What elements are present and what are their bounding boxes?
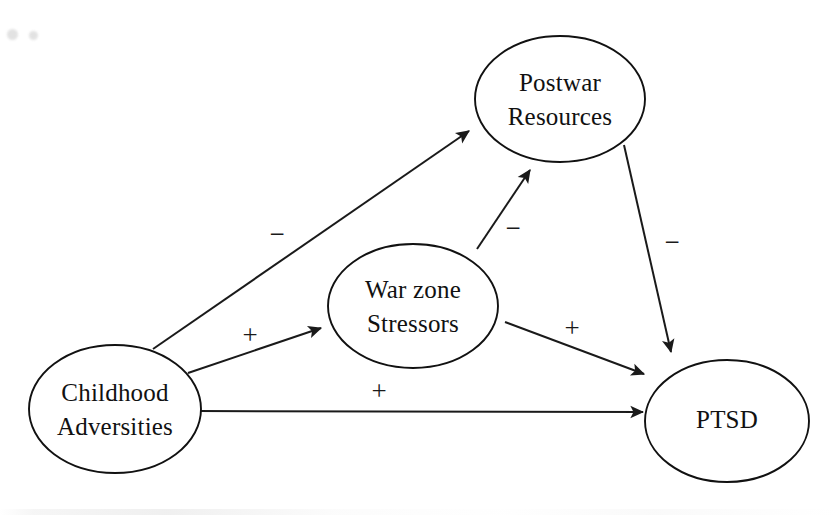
node-war-zone-stressors-ellipse [328, 244, 498, 368]
node-war-zone-stressors-label-line2: Stressors [367, 310, 459, 337]
sign-warzone-to-postwar: − [505, 213, 520, 243]
node-childhood-adversities-label-line1: Childhood [61, 379, 169, 406]
node-ptsd-label-line1: PTSD [696, 406, 758, 433]
sign-postwar-to-ptsd: − [664, 227, 679, 257]
path-diagram-figure: Postwar Resources War zone Stressors Chi… [0, 0, 837, 515]
scan-speck [29, 31, 38, 40]
edge-warzone-to-postwar [477, 170, 530, 249]
edge-childhood-to-ptsd [198, 411, 643, 412]
sign-warzone-to-ptsd: + [564, 313, 579, 343]
node-postwar-resources-label-line2: Resources [508, 103, 613, 130]
node-postwar-resources-ellipse [475, 36, 645, 162]
sign-childhood-to-warzone: + [242, 320, 257, 350]
nodes-group: Postwar Resources War zone Stressors Chi… [29, 36, 809, 482]
node-war-zone-stressors-label-line1: War zone [365, 276, 461, 303]
node-war-zone-stressors: War zone Stressors [328, 244, 498, 368]
node-childhood-adversities-ellipse [29, 345, 201, 473]
node-postwar-resources: Postwar Resources [475, 36, 645, 162]
sign-childhood-to-ptsd: + [371, 376, 386, 406]
scan-speck [7, 29, 18, 40]
node-ptsd: PTSD [645, 360, 809, 482]
diagram-canvas: Postwar Resources War zone Stressors Chi… [0, 0, 837, 515]
scan-edge-smudge [0, 509, 837, 515]
node-postwar-resources-label-line1: Postwar [519, 69, 601, 96]
node-childhood-adversities: Childhood Adversities [29, 345, 201, 473]
sign-childhood-to-postwar: − [269, 219, 284, 249]
node-childhood-adversities-label-line2: Adversities [57, 413, 173, 440]
